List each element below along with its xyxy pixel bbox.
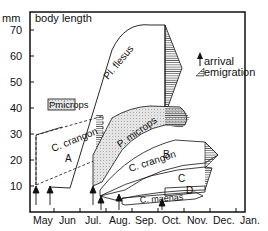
xtick-jun: Jun [59,214,76,226]
letter-c: C [178,173,185,184]
region-p-microps: P. microps [93,106,190,186]
xtick-jan: Jan. [240,214,260,226]
arrival-arrow-icon [197,52,203,59]
letter-d: D [186,185,193,196]
legend: arrival emigration [196,52,255,78]
ytick-50: 50 [10,76,22,88]
ytick-70: 70 [10,24,22,36]
label-pmicrops: Pmicrops [49,99,89,110]
xtick-aug: Aug. [109,214,131,226]
letter-b: B [163,149,170,160]
letter-a: A [65,153,72,164]
legend-emigration: emigration [204,66,255,78]
y-unit: mm [2,12,20,24]
xtick-nov: Nov. [187,214,208,226]
ytick-10: 10 [10,180,22,192]
region-pmicrops-early: Pmicrops [48,99,89,110]
ytick-40: 40 [10,102,22,114]
xtick-sep: Sep. [135,214,157,226]
y-axis-title: body length [35,12,92,24]
xtick-dec: Dec. [213,214,235,226]
growth-diagram: mm body length 70 60 50 40 30 20 10 May … [0,0,268,231]
emigration-hatch-icon [196,68,204,76]
ytick-20: 20 [10,154,22,166]
ytick-30: 30 [10,128,22,140]
label-pl-flesus: Pl. flesus [101,43,136,81]
ytick-60: 60 [10,50,22,62]
xtick-oct: Oct. [162,214,181,226]
xtick-jul: Jul. [85,214,101,226]
label-c-crangon-a: C. crangon [50,125,99,154]
xtick-may: May [33,214,54,226]
